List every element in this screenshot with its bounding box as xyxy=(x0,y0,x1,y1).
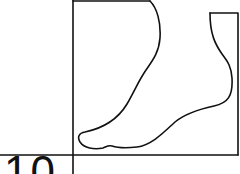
figure-number-label: 10 xyxy=(4,150,57,174)
box-right-outline xyxy=(210,13,238,155)
foot-outline-icon xyxy=(79,1,233,149)
